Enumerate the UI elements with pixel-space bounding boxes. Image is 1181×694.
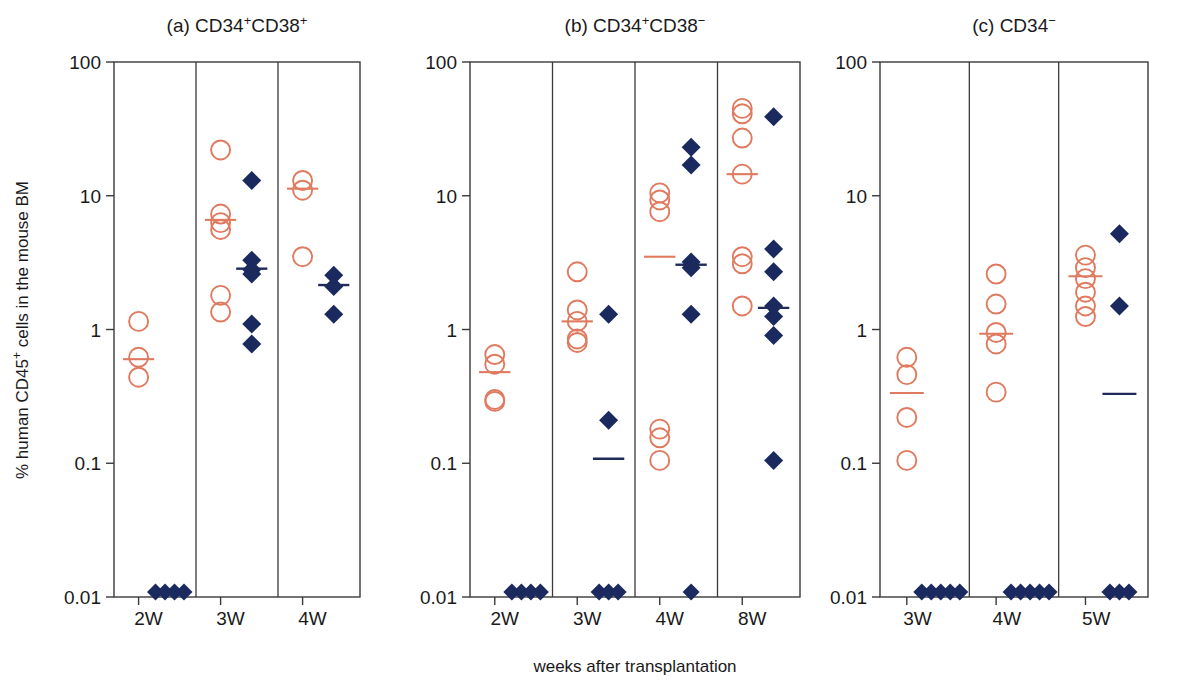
data-point-circle <box>897 348 916 367</box>
data-point-circle <box>568 262 587 281</box>
data-point-circle <box>987 323 1006 342</box>
y-tick-label-10: 10 <box>436 186 457 207</box>
panel-c: (c) CD34−0.010.11101003W4W5W <box>830 13 1148 630</box>
figure-root: % human CD45+ cells in the mouse BMweeks… <box>0 0 1181 694</box>
panel-title-label: (a) <box>167 15 196 36</box>
data-point-diamond <box>764 239 783 258</box>
data-point-circle <box>897 408 916 427</box>
x-category-label-3W: 3W <box>216 608 245 629</box>
panel-title-sup1: + <box>642 13 650 28</box>
y-tick-label-100: 100 <box>425 52 457 73</box>
y-tick-label-0.1: 0.1 <box>431 453 457 474</box>
data-point-circle <box>897 365 916 384</box>
y-tick-label-0.1: 0.1 <box>841 453 867 474</box>
data-point-diamond <box>532 584 549 601</box>
panel-title-main: CD34 <box>1000 15 1049 36</box>
x-category-label-3W: 3W <box>903 608 932 629</box>
y-tick-label-1: 1 <box>90 320 101 341</box>
data-point-circle <box>987 383 1006 402</box>
panel-title-b: (b) CD34+CD38− <box>565 13 706 37</box>
x-category-label-2W: 2W <box>134 608 163 629</box>
data-point-diamond <box>242 171 261 190</box>
panel-frame-a <box>114 62 360 597</box>
data-point-circle <box>733 129 752 148</box>
data-point-circle <box>129 348 148 367</box>
y-tick-label-10: 10 <box>80 186 101 207</box>
data-point-diamond <box>1110 296 1129 315</box>
scatter-figure: % human CD45+ cells in the mouse BMweeks… <box>0 0 1181 694</box>
y-tick-label-0.01: 0.01 <box>420 587 457 608</box>
data-point-diamond <box>682 305 701 324</box>
data-point-circle <box>987 295 1006 314</box>
data-point-diamond <box>1120 584 1137 601</box>
panel-title-sup1: + <box>244 13 252 28</box>
x-category-label-2W: 2W <box>490 608 519 629</box>
panel-title-mid: CD38 <box>649 15 698 36</box>
y-tick-label-0.1: 0.1 <box>75 453 101 474</box>
panel-title-sup2: − <box>698 13 706 28</box>
data-point-diamond <box>242 334 261 353</box>
data-point-circle <box>1076 296 1095 315</box>
data-point-diamond <box>951 584 968 601</box>
y-tick-label-0.01: 0.01 <box>830 587 867 608</box>
panel-title-mid: CD38 <box>251 15 300 36</box>
data-point-diamond <box>764 326 783 345</box>
x-category-label-8W: 8W <box>738 608 767 629</box>
data-point-diamond <box>610 584 627 601</box>
data-point-circle <box>987 264 1006 283</box>
data-point-diamond <box>764 307 783 326</box>
data-point-circle <box>733 296 752 315</box>
y-axis-label: % human CD45+ cells in the mouse BM <box>10 181 32 479</box>
y-tick-label-100: 100 <box>835 52 867 73</box>
data-point-diamond <box>683 584 700 601</box>
x-category-label-3W: 3W <box>573 608 602 629</box>
x-category-label-4W: 4W <box>993 608 1022 629</box>
x-category-label-4W: 4W <box>298 608 327 629</box>
data-point-diamond <box>599 305 618 324</box>
panel-title-c: (c) CD34− <box>972 13 1056 37</box>
data-point-circle <box>1076 258 1095 277</box>
panel-title-label: (c) <box>972 15 999 36</box>
data-point-diamond <box>1110 224 1129 243</box>
data-point-diamond <box>176 584 193 601</box>
data-point-diamond <box>682 138 701 157</box>
y-axis-label-main: % human CD45 <box>13 359 32 479</box>
panel-title-label: (b) <box>565 15 594 36</box>
x-category-label-4W: 4W <box>655 608 684 629</box>
y-axis-label-sup: + <box>10 352 24 359</box>
data-point-circle <box>211 140 230 159</box>
data-point-diamond <box>764 107 783 126</box>
data-point-circle <box>987 334 1006 353</box>
data-point-diamond <box>242 314 261 333</box>
y-tick-label-0.01: 0.01 <box>64 587 101 608</box>
panel-title-main: CD34 <box>195 15 244 36</box>
data-point-circle <box>568 300 587 319</box>
x-category-label-5W: 5W <box>1082 608 1111 629</box>
y-tick-label-100: 100 <box>69 52 101 73</box>
data-point-diamond <box>764 451 783 470</box>
data-point-circle <box>129 312 148 331</box>
data-point-diamond <box>764 262 783 281</box>
x-axis-label: weeks after transplantation <box>532 657 736 676</box>
data-point-diamond <box>599 411 618 430</box>
y-axis-label-tail: cells in the mouse BM <box>13 181 32 352</box>
panel-title-main: CD34 <box>593 15 642 36</box>
data-point-circle <box>650 202 669 221</box>
data-point-diamond <box>1041 584 1058 601</box>
data-point-circle <box>650 451 669 470</box>
y-tick-label-10: 10 <box>846 186 867 207</box>
data-point-circle <box>897 451 916 470</box>
panel-title-a: (a) CD34+CD38+ <box>167 13 308 37</box>
panel-b: (b) CD34+CD38−0.010.11101002W3W4W8W <box>420 13 800 630</box>
data-point-diamond <box>682 155 701 174</box>
y-tick-label-1: 1 <box>446 320 457 341</box>
panel-title-sup2: + <box>300 13 308 28</box>
data-point-circle <box>293 247 312 266</box>
data-point-diamond <box>324 305 343 324</box>
data-point-circle <box>1076 307 1095 326</box>
panel-a: (a) CD34+CD38+0.010.11101002W3W4W <box>64 13 360 630</box>
y-tick-label-1: 1 <box>856 320 867 341</box>
panel-frame-c <box>880 62 1148 597</box>
data-point-diamond <box>324 277 343 296</box>
panel-title-sup1: − <box>1048 13 1056 28</box>
